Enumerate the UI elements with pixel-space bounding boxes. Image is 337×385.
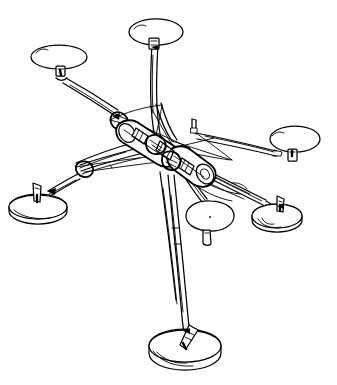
drawing-canvas: Hexapod walking machine sketch Hand draw… [0,0,337,385]
hexapod-line-drawing [0,0,337,385]
